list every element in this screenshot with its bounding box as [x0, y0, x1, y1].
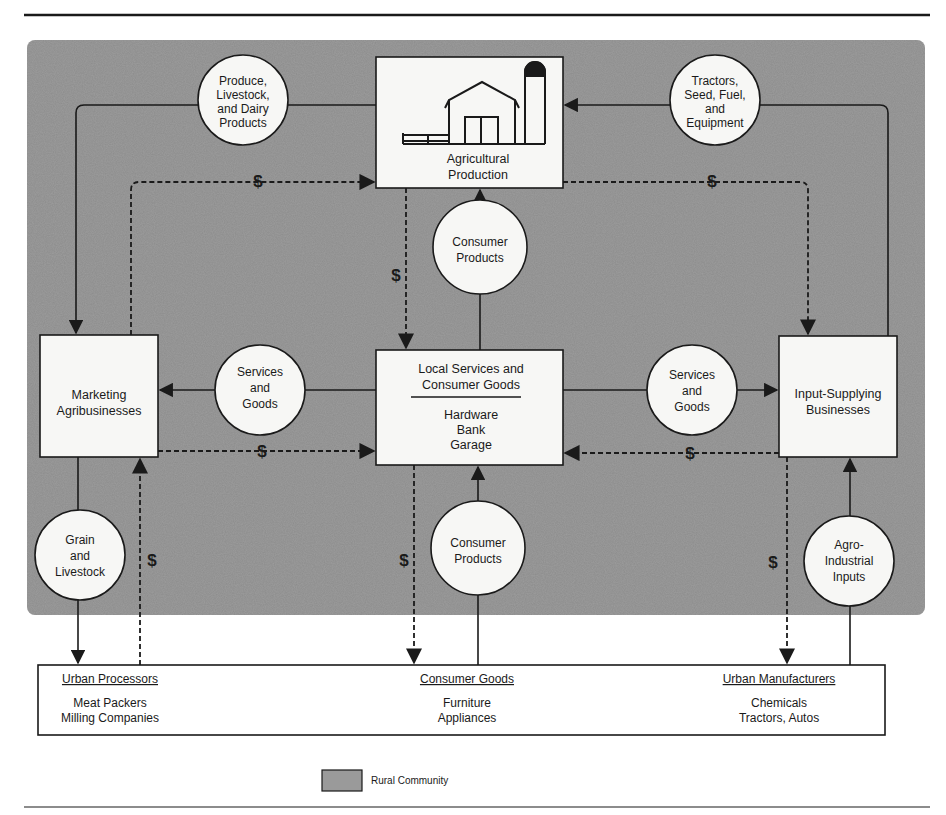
circle-label: Produce,	[219, 74, 267, 88]
node-input-supplying-businesses: Input-Supplying Businesses	[779, 336, 897, 457]
dollar-sign: $	[253, 172, 263, 191]
node-title: Local Services and	[418, 362, 524, 376]
dollar-sign: $	[257, 442, 267, 461]
legend-label: Rural Community	[371, 775, 448, 786]
dollar-sign: $	[391, 266, 401, 285]
section-title: Consumer Goods	[420, 672, 514, 686]
urban-processors: Urban Processors Meat Packers Milling Co…	[61, 672, 159, 725]
circle-label: and	[70, 549, 90, 563]
circle-label: Livestock,	[216, 88, 269, 102]
circle-consumer-products-bottom: Consumer Products	[431, 501, 525, 595]
circle-label: Tractors,	[692, 74, 739, 88]
circle-label: and	[705, 102, 725, 116]
section-item: Meat Packers	[73, 696, 146, 710]
circle-label: and Dairy	[217, 102, 268, 116]
node-label: Businesses	[806, 403, 870, 417]
node-agricultural-production: Agricultural Production	[376, 57, 563, 188]
circle-label: Equipment	[686, 116, 744, 130]
node-label: Input-Supplying	[795, 387, 882, 401]
node-local-services: Local Services and Consumer Goods Hardwa…	[376, 350, 563, 465]
circle-label: Seed, Fuel,	[684, 88, 745, 102]
section-item: Furniture	[443, 696, 491, 710]
section-item: Chemicals	[751, 696, 807, 710]
circle-grain-livestock: Grain and Livestock	[35, 510, 125, 600]
section-item: Tractors, Autos	[739, 711, 819, 725]
circle-label: Inputs	[833, 570, 866, 584]
circle-services-goods-left: Services and Goods	[215, 345, 305, 435]
node-label: Marketing	[72, 388, 127, 402]
circle-label: and	[250, 381, 270, 395]
circle-label: Goods	[242, 397, 277, 411]
dollar-sign: $	[147, 551, 157, 570]
circle-agro-industrial-inputs: Agro- Industrial Inputs	[804, 516, 894, 606]
circle-label: Agro-	[834, 538, 863, 552]
circle-label: Industrial	[825, 554, 874, 568]
legend-swatch-rural	[322, 770, 362, 791]
circle-label: Services	[237, 365, 283, 379]
section-title: Urban Manufacturers	[723, 672, 836, 686]
circle-label: Goods	[674, 400, 709, 414]
circle-services-goods-right: Services and Goods	[647, 345, 737, 435]
section-item: Milling Companies	[61, 711, 159, 725]
node-urban-sector: Urban Processors Meat Packers Milling Co…	[38, 665, 885, 735]
circle-label: and	[682, 384, 702, 398]
node-item: Hardware	[444, 408, 498, 422]
node-label: Agribusinesses	[57, 404, 142, 418]
node-title: Consumer Goods	[422, 378, 520, 392]
node-item: Garage	[450, 438, 492, 452]
circle-label: Grain	[65, 533, 94, 547]
circle-label: Livestock	[55, 565, 106, 579]
circle-consumer-products-top: Consumer Products	[433, 200, 527, 294]
dollar-sign: $	[399, 551, 409, 570]
dollar-sign: $	[685, 444, 695, 463]
dollar-sign: $	[707, 172, 717, 191]
legend: Rural Community	[322, 770, 448, 791]
rural-economy-flow-diagram: $ $ $ $ $ $ $ $ Agricultural Production …	[0, 0, 946, 815]
circle-tractors-seed-fuel: Tractors, Seed, Fuel, and Equipment	[670, 55, 760, 145]
circle-label: Products	[456, 251, 503, 265]
circle-label: Services	[669, 368, 715, 382]
dollar-sign: $	[768, 553, 778, 572]
circle-label: Products	[219, 116, 266, 130]
circle-label: Consumer	[452, 235, 507, 249]
section-title: Urban Processors	[62, 672, 158, 686]
node-label: Agricultural	[447, 152, 510, 166]
node-item: Bank	[457, 423, 486, 437]
circle-produce-livestock-dairy: Produce, Livestock, and Dairy Products	[198, 55, 288, 145]
node-label: Production	[448, 168, 508, 182]
node-marketing-agribusinesses: Marketing Agribusinesses	[40, 335, 158, 457]
section-item: Appliances	[438, 711, 497, 725]
circle-label: Consumer	[450, 536, 505, 550]
circle-label: Products	[454, 552, 501, 566]
